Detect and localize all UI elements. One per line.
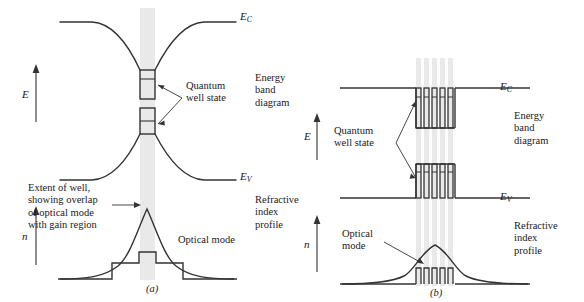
- quantum-well-state-arrowhead-upper: [411, 101, 416, 108]
- valence-band-curve: [60, 134, 140, 180]
- energy-axis-arrowhead: [33, 64, 40, 73]
- panel-a-caption: (a): [146, 283, 158, 295]
- well-extent-shade: [140, 8, 155, 280]
- conduction-band-label: EC: [500, 80, 512, 94]
- extent-of-well-arrowhead: [134, 202, 141, 208]
- optical-mode-label: Optical mode: [342, 228, 373, 253]
- quantum-well-state-leader-lower: [158, 98, 182, 124]
- refractive-index-profile-title: Refractive index profile: [514, 220, 558, 257]
- energy-axis-label: E: [304, 130, 311, 143]
- valence-band-label: EV: [500, 190, 512, 204]
- refractive-index-axis-arrowhead: [314, 215, 321, 224]
- conduction-band-symbol: E: [500, 80, 507, 92]
- conduction-band-subscript: C: [507, 85, 512, 94]
- conduction-band-symbol: E: [240, 10, 247, 22]
- optical-mode-label: Optical mode: [178, 234, 235, 246]
- conduction-band-label: EC: [240, 10, 252, 24]
- quantum-well-state-arrowhead-upper: [158, 85, 165, 90]
- optical-mode-leader: [384, 242, 420, 262]
- conduction-band-curve: [60, 22, 140, 70]
- valence-band-label: EV: [240, 170, 252, 184]
- energy-axis-label: E: [22, 88, 29, 101]
- panel-b-caption: (b): [430, 287, 442, 299]
- quantum-well-state-label: Quantum well state: [334, 125, 374, 150]
- panel-a-single-quantum-well: E n EC EV Quantum well state Extent of w…: [0, 0, 292, 302]
- refractive-index-axis-label: n: [22, 230, 28, 243]
- valence-band-symbol: E: [500, 190, 507, 202]
- quantum-well-state-leader-upper: [396, 101, 416, 143]
- extent-of-well-label: Extent of well, showing overlap of optic…: [28, 182, 98, 232]
- panel-b-multiple-quantum-well: E n EC EV Quantum well state Optical mod…: [292, 0, 584, 302]
- conduction-band-subscript: C: [247, 15, 252, 24]
- valence-band-subscript: V: [247, 175, 252, 184]
- quantum-well-state-label: Quantum well state: [186, 80, 226, 105]
- conduction-band-curve-right: [155, 22, 236, 70]
- valence-band-subscript: V: [507, 195, 512, 204]
- quantum-well-state-leader-lower: [396, 143, 416, 178]
- valence-band-curve-right: [155, 134, 236, 180]
- energy-axis-arrowhead: [314, 113, 321, 122]
- refractive-index-axis-label: n: [304, 238, 310, 251]
- energy-band-diagram-title: Energy band diagram: [514, 110, 548, 147]
- energy-band-diagram-title: Energy band diagram: [255, 72, 289, 109]
- panel-a-drawing: [0, 0, 292, 302]
- valence-band-symbol: E: [240, 170, 247, 182]
